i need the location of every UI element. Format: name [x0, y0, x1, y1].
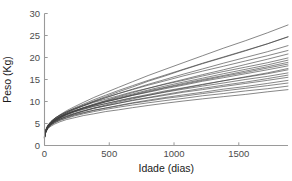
growth-curve-line [45, 64, 289, 137]
curves-group [45, 25, 289, 138]
x-axis-ticks: 050010001500 [42, 142, 250, 158]
y-tick-label: 20 [29, 52, 40, 63]
x-tick-label: 1500 [228, 148, 249, 159]
y-tick-label: 10 [29, 96, 40, 107]
y-tick-label: 0 [35, 140, 40, 151]
x-tick-label: 0 [42, 148, 47, 159]
growth-curve-line [45, 54, 289, 138]
growth-curve-line [45, 62, 289, 137]
growth-curve-figure: 050010001500 051015202530 Idade (dias) P… [0, 0, 292, 181]
y-tick-label: 5 [35, 118, 40, 129]
chart-canvas: 050010001500 051015202530 Idade (dias) P… [0, 0, 292, 181]
y-tick-label: 15 [29, 74, 40, 85]
y-axis-title: Peso (Kg) [1, 56, 13, 103]
x-tick-label: 1000 [163, 148, 184, 159]
y-tick-label: 30 [29, 8, 40, 19]
x-tick-label: 500 [101, 148, 117, 159]
y-tick-label: 25 [29, 30, 40, 41]
x-axis-title: Idade (dias) [139, 162, 194, 174]
